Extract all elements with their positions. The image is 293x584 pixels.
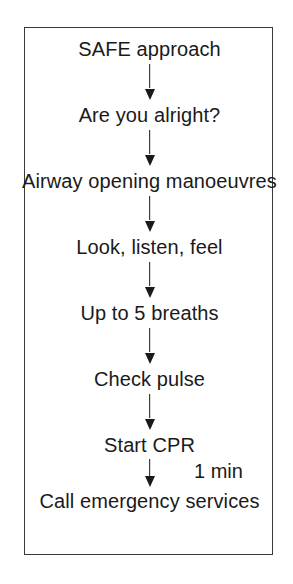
flowchart-border: SAFE approach Are you alright? Airway op… [24, 27, 273, 555]
arrow-shaft [149, 328, 151, 352]
flow-connector-row-with-label: 1 min [25, 457, 274, 489]
flow-step-check-pulse: Check pulse [94, 367, 205, 391]
flowchart-step-stack: SAFE approach Are you alright? Airway op… [25, 28, 274, 556]
arrow-shaft [149, 64, 151, 88]
arrow-shaft [149, 262, 151, 286]
flow-step-start-cpr: Start CPR [104, 433, 195, 457]
flow-step-call-emergency-services: Call emergency services [39, 489, 259, 513]
flow-step-up-to-5-breaths: Up to 5 breaths [80, 301, 218, 325]
flowchart-figure: SAFE approach Are you alright? Airway op… [0, 0, 293, 584]
arrow-head [145, 89, 155, 100]
arrow-head [145, 287, 155, 298]
flow-arrow-down-icon-6 [139, 394, 161, 430]
arrow-head [145, 419, 155, 430]
flow-annotation-duration: 1 min [194, 459, 243, 483]
flow-arrow-down-icon-5 [139, 328, 161, 364]
arrow-shaft [149, 394, 151, 418]
arrow-shaft [149, 130, 151, 154]
flow-arrow-down-icon-1 [139, 64, 161, 100]
flow-arrow-down-icon-7 [139, 459, 161, 487]
arrow-head [145, 221, 155, 232]
flow-arrow-down-icon-4 [139, 262, 161, 298]
arrow-shaft [149, 196, 151, 220]
arrow-head [145, 155, 155, 166]
flow-step-look-listen-feel: Look, listen, feel [76, 235, 222, 259]
flow-arrow-down-icon-2 [139, 130, 161, 166]
flow-step-airway-opening-manoeuvres: Airway opening manoeuvres [22, 169, 277, 193]
arrow-head [145, 353, 155, 364]
flow-step-are-you-alright: Are you alright? [79, 103, 221, 127]
arrow-head [145, 476, 155, 487]
flow-step-safe-approach: SAFE approach [78, 37, 221, 61]
flow-arrow-down-icon-3 [139, 196, 161, 232]
